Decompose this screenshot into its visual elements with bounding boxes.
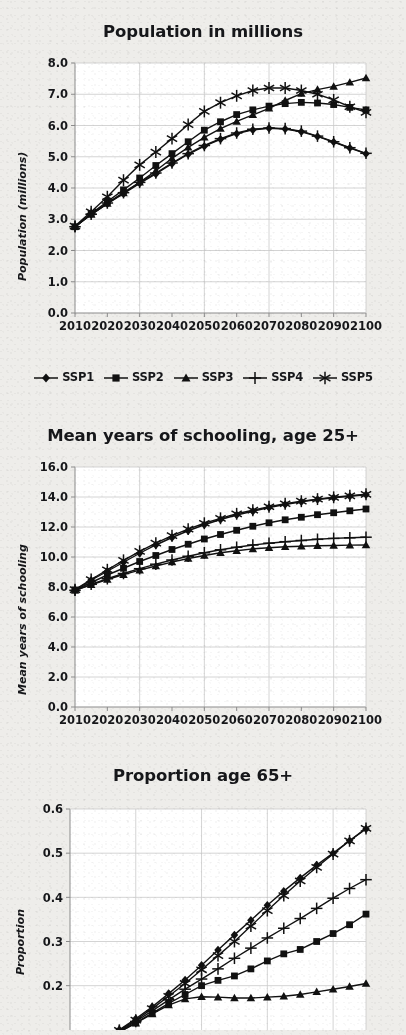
chart-title-population: Population in millions [0, 24, 406, 41]
y-tick-label: 0.6 [43, 802, 63, 816]
marker-square [185, 540, 192, 547]
x-tick-label: 2080 [285, 713, 317, 727]
marker-square [169, 546, 176, 553]
marker-square [215, 976, 222, 983]
x-tick-label: 2060 [221, 713, 253, 727]
legend-label: SSP5 [341, 372, 373, 384]
marker-square [280, 950, 287, 957]
marker-square [330, 509, 337, 516]
legend-marker-plus-icon [242, 370, 268, 386]
marker-square [330, 930, 337, 937]
x-tick-label: 2100 [350, 713, 382, 727]
y-tick-label: 5.0 [48, 149, 68, 163]
y-tick-label: 12.0 [40, 520, 68, 534]
x-tick-label: 2090 [318, 713, 350, 727]
y-tick-label: 6.0 [48, 610, 68, 624]
legend-item-ssp4[interactable]: SSP4 [242, 370, 303, 386]
plot-area-proportion: Proportion 0.20.30.40.50.6 [0, 785, 406, 1030]
marker-square [298, 513, 305, 520]
x-tick-label: 2090 [318, 319, 350, 333]
legend-item-ssp5[interactable]: SSP5 [312, 370, 373, 386]
y-tick-label: 2.0 [48, 243, 68, 257]
chart-legend: SSP1SSP2SSP3SSP4SSP5 [0, 368, 406, 388]
x-tick-label: 2030 [124, 713, 156, 727]
chart-panel-proportion: Proportion age 65+ Proportion 0.20.30.40… [0, 768, 406, 1030]
x-tick-label: 2070 [253, 713, 285, 727]
x-tick-label: 2030 [124, 319, 156, 333]
chart-title-proportion: Proportion age 65+ [0, 768, 406, 785]
y-tick-label: 1.0 [48, 274, 68, 288]
y-tick-label: 14.0 [40, 490, 68, 504]
y-tick-label: 3.0 [48, 212, 68, 226]
x-tick-label: 2050 [188, 713, 220, 727]
marker-square [266, 519, 273, 526]
legend-marker-square-icon [103, 370, 129, 386]
chart-svg-population: 0.01.02.03.04.05.06.07.08.02010202020302… [0, 41, 406, 341]
marker-square [217, 118, 224, 125]
x-tick-label: 2010 [59, 713, 91, 727]
y-tick-label: 8.0 [48, 580, 68, 594]
marker-square [201, 126, 208, 133]
x-tick-label: 2040 [156, 713, 188, 727]
y-tick-label: 10.0 [40, 550, 68, 564]
legend-marker-diamond-icon [33, 370, 59, 386]
marker-square [297, 946, 304, 953]
x-tick-label: 2040 [156, 319, 188, 333]
legend-label: SSP4 [271, 372, 303, 384]
y-tick-label: 4.0 [48, 640, 68, 654]
legend-label: SSP3 [202, 372, 234, 384]
legend-item-ssp3[interactable]: SSP3 [173, 370, 234, 386]
legend-label: SSP2 [132, 372, 164, 384]
marker-plus [249, 372, 261, 384]
legend-label: SSP1 [62, 372, 94, 384]
plot-area-population: Population (millions) 0.01.02.03.04.05.0… [0, 41, 406, 341]
y-axis-title-proportion: Proportion [14, 909, 27, 975]
marker-square [264, 957, 271, 964]
marker-square [282, 516, 289, 523]
y-tick-label: 0.5 [43, 846, 63, 860]
y-tick-label: 16.0 [40, 460, 68, 474]
y-tick-label: 0.3 [43, 934, 63, 948]
marker-square [152, 552, 159, 559]
marker-diamond [42, 374, 50, 383]
marker-square [314, 511, 321, 518]
y-tick-label: 0.4 [43, 890, 63, 904]
y-axis-title-population: Population (millions) [16, 151, 29, 280]
marker-square [217, 531, 224, 538]
legend-item-ssp2[interactable]: SSP2 [103, 370, 164, 386]
marker-square [314, 99, 321, 106]
marker-square [247, 965, 254, 972]
marker-square [363, 910, 370, 917]
marker-square [363, 505, 370, 512]
marker-square [201, 535, 208, 542]
marker-square [231, 972, 238, 979]
x-tick-label: 2020 [91, 713, 123, 727]
marker-square [233, 526, 240, 533]
marker-square [298, 98, 305, 105]
marker-square [346, 921, 353, 928]
x-tick-label: 2080 [285, 319, 317, 333]
marker-square [346, 507, 353, 514]
x-tick-label: 2050 [188, 319, 220, 333]
marker-square [112, 374, 119, 381]
plot-area-schooling: Mean years of schooling 0.02.04.06.08.01… [0, 445, 406, 735]
y-axis-title-schooling: Mean years of schooling [16, 544, 29, 695]
chart-title-schooling: Mean years of schooling, age 25+ [0, 428, 406, 445]
marker-square [313, 938, 320, 945]
marker-square [249, 522, 256, 529]
y-tick-label: 0.2 [43, 978, 63, 992]
chart-panel-schooling: Mean years of schooling, age 25+ Mean ye… [0, 428, 406, 735]
y-tick-label: 4.0 [48, 181, 68, 195]
x-tick-label: 2060 [221, 319, 253, 333]
chart-panel-population: Population in millions Population (milli… [0, 24, 406, 341]
x-tick-label: 2070 [253, 319, 285, 333]
chart-svg-schooling: 0.02.04.06.08.010.012.014.016.0201020202… [0, 445, 406, 735]
y-tick-label: 2.0 [48, 670, 68, 684]
x-tick-label: 2020 [91, 319, 123, 333]
x-tick-label: 2010 [59, 319, 91, 333]
y-tick-label: 7.0 [48, 87, 68, 101]
chart-svg-proportion: 0.20.30.40.50.6 [0, 785, 406, 1030]
y-tick-label: 6.0 [48, 118, 68, 132]
legend-marker-triangle-icon [173, 370, 199, 386]
legend-item-ssp1[interactable]: SSP1 [33, 370, 94, 386]
